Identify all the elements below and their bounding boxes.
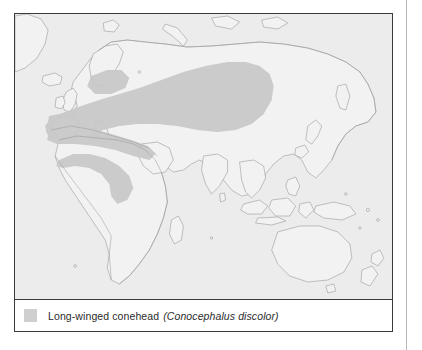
island-dot <box>366 208 369 211</box>
legend-scientific-name: (Conocephalus discolor) <box>163 310 279 322</box>
column-divider-rule <box>406 0 407 350</box>
island-dot <box>345 193 348 196</box>
world-map <box>15 14 392 299</box>
island-dot <box>138 71 140 73</box>
world-map-svg <box>15 14 392 299</box>
island-dot <box>359 227 361 229</box>
island-dot <box>377 219 380 222</box>
map-legend: Long-winged conehead(Conocephalus discol… <box>15 299 392 331</box>
distribution-map-figure: Long-winged conehead(Conocephalus discol… <box>14 13 393 332</box>
legend-common-name: Long-winged conehead <box>48 310 159 322</box>
island-dot <box>74 265 77 268</box>
legend-label: Long-winged conehead(Conocephalus discol… <box>48 310 279 322</box>
landmass-sri-lanka <box>220 193 226 202</box>
island-dot <box>210 237 212 239</box>
legend-swatch-range <box>24 309 37 322</box>
landmass-tasmania <box>326 284 336 293</box>
